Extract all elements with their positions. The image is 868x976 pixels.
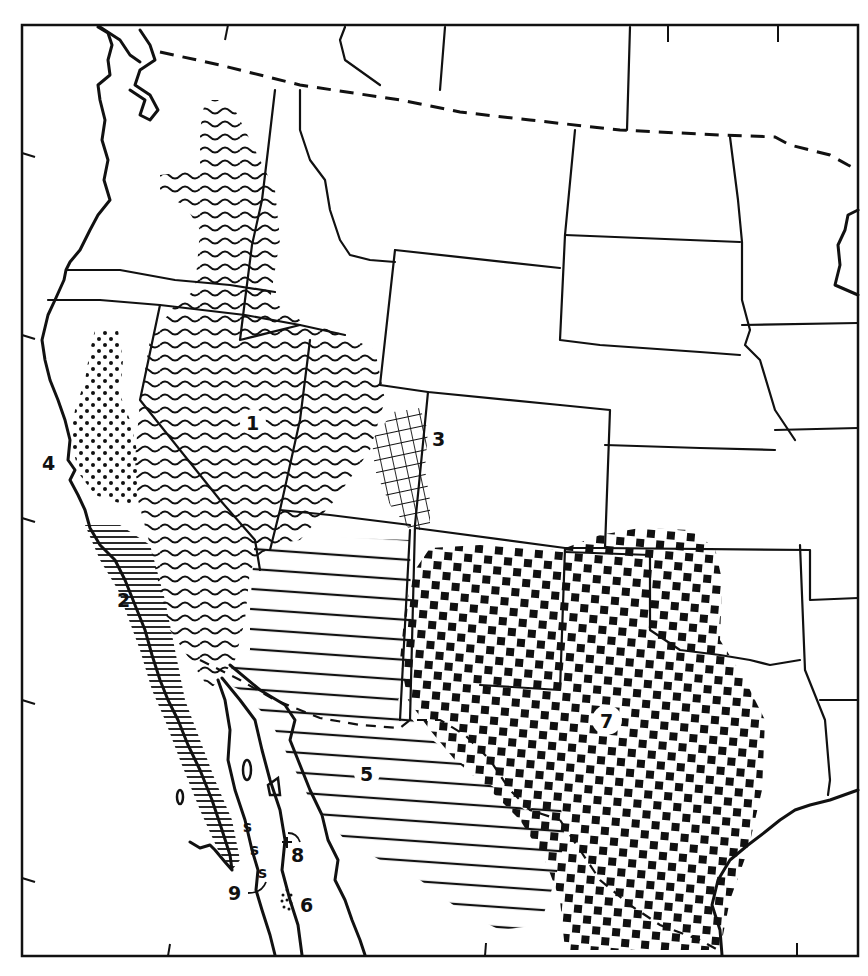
puget-sound [130,30,158,120]
zone-8-leader [288,833,300,842]
great-lakes-shore [835,210,858,295]
canada-us-border [160,52,858,170]
svg-text:s: s [250,841,259,859]
zone-label-6: 6 [300,894,313,916]
range-map: s s s 1 2 3 4 5 6 7 8 9 [0,0,868,976]
zone-label-1: 1 [246,412,259,434]
zone-label-7: 7 [600,710,613,732]
zone-4-area [70,330,138,505]
zone-label-4: 4 [42,452,55,474]
zone-label-2: 2 [117,589,130,611]
zone-label-5: 5 [360,763,373,785]
zone-label-8: 8 [291,844,304,866]
vancouver-island [100,27,140,62]
zone-label-9: 9 [228,882,241,904]
pacific-island [177,790,183,804]
zone-9-symbols: s s s [243,818,267,882]
svg-text:s: s [258,864,267,882]
map-svg: s s s 1 2 3 4 5 6 7 8 9 [0,0,868,976]
zone-label-3: 3 [432,428,445,450]
svg-text:s: s [243,818,252,836]
gulf-island-1 [243,760,251,780]
